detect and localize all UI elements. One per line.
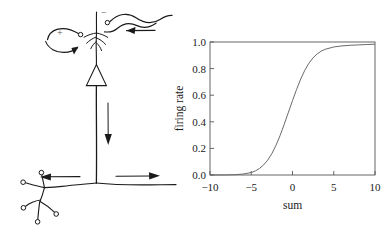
- inhibitory-sign-label: −: [101, 7, 107, 18]
- x-axis-title: sum: [283, 199, 302, 211]
- y-axis-ticks: [210, 42, 214, 175]
- synaptic-bouton-left: [78, 32, 82, 36]
- terminal-branch-down-left: [26, 200, 41, 206]
- y-tick-label-1: 0.2: [192, 142, 206, 154]
- dendrite-branch-left-1: [84, 33, 96, 37]
- dendrite-branch-left-3: [91, 42, 97, 49]
- firing-rate-chart-panel: 0.0 0.2 0.4 0.6 0.8 1.0 −10 −5 0 5 10 su…: [170, 0, 391, 232]
- axon-collateral-right: [96, 183, 176, 185]
- x-tick-labels: −10 −5 0 5 10: [201, 181, 381, 193]
- terminal-bouton-1: [39, 170, 44, 175]
- axon-collateral-left: [45, 183, 97, 188]
- y-tick-labels: 0.0 0.2 0.4 0.6 0.8 1.0: [192, 36, 206, 181]
- neuron-diagram-svg: − +: [0, 0, 196, 232]
- y-tick-label-0: 0.0: [192, 169, 206, 181]
- x-tick-label-0: −10: [201, 181, 219, 193]
- terminal-branch-down-center: [38, 202, 40, 219]
- terminal-bouton-3: [21, 206, 26, 211]
- dendrite-branch-right-3: [97, 43, 102, 51]
- terminal-bouton-4: [54, 212, 59, 217]
- x-tick-label-2: 0: [290, 181, 296, 193]
- figure-root: − +: [0, 0, 391, 232]
- y-tick-label-5: 1.0: [192, 36, 206, 48]
- dendrite-branch-right-1: [97, 33, 108, 37]
- plot-frame: [210, 42, 375, 175]
- x-tick-label-1: −5: [245, 181, 257, 193]
- y-tick-label-3: 0.6: [192, 89, 206, 101]
- terminal-right-arrow-head: [149, 172, 160, 179]
- terminal-branch-left: [25, 183, 44, 188]
- incoming-axon-right-upper: [110, 14, 172, 22]
- excitatory-sign-label: +: [57, 27, 63, 38]
- sigmoid-curve: [210, 44, 375, 175]
- x-tick-label-4: 10: [370, 181, 382, 193]
- dendrite-branch-right-2: [97, 38, 106, 44]
- incoming-left-curved-arrow-head: [71, 47, 78, 55]
- firing-rate-chart-svg: 0.0 0.2 0.4 0.6 0.8 1.0 −10 −5 0 5 10 su…: [170, 0, 391, 232]
- incoming-left-curved-arrow-shaft: [46, 41, 78, 52]
- axon-down-arrow-head: [105, 134, 112, 145]
- incoming-axon-left: [48, 29, 79, 40]
- synaptic-bouton-right-upper: [105, 20, 109, 24]
- terminal-branch-down-right: [40, 202, 54, 213]
- neuron-diagram-panel: − +: [0, 0, 196, 232]
- y-tick-label-2: 0.4: [192, 116, 206, 128]
- x-tick-label-3: 5: [331, 181, 337, 193]
- y-axis-title: firing rate: [173, 86, 186, 132]
- incoming-right-arrow-head: [127, 27, 136, 34]
- terminal-bouton-2: [21, 180, 26, 185]
- terminal-bouton-5: [35, 220, 40, 225]
- y-tick-label-4: 0.8: [192, 63, 206, 75]
- soma-triangle: [86, 65, 106, 86]
